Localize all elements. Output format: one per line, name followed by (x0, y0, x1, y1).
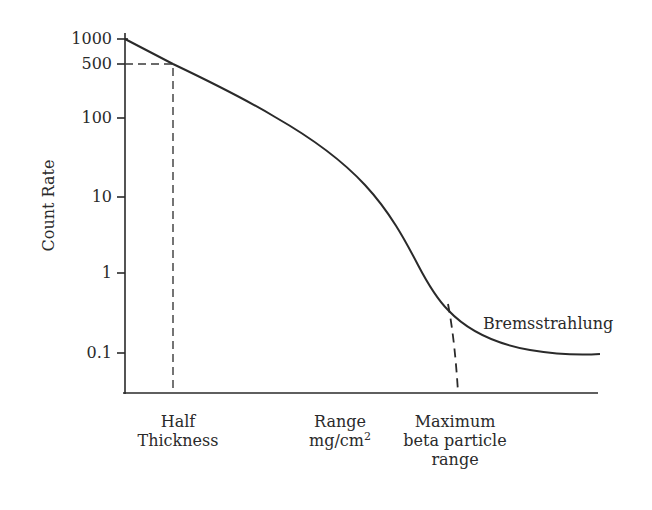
half-thickness-label-line1: Half (128, 412, 228, 431)
max-range-label-line1: Maximum (400, 412, 510, 431)
x-axis-label-line1: Range (290, 412, 390, 431)
max-range-label: Maximum beta particle range (400, 412, 510, 469)
max-range-label-line2: beta particle (400, 431, 510, 450)
x-axis-unit-text: mg/cm (309, 431, 364, 450)
y-tick-1: 1 (52, 263, 112, 282)
half-thickness-guide (125, 64, 173, 393)
y-tick-10: 10 (52, 187, 112, 206)
y-tick-1000: 1000 (52, 29, 112, 48)
y-ticks (117, 39, 128, 353)
x-axis-unit-exponent: 2 (364, 430, 371, 443)
max-range-label-line3: range (400, 450, 510, 469)
absorption-curve (125, 39, 600, 355)
y-axis-label: Count Rate (39, 156, 58, 256)
bremsstrahlung-label: Bremsstrahlung (483, 314, 613, 333)
y-tick-100: 100 (52, 108, 112, 127)
x-axis-label: Range mg/cm2 (290, 412, 390, 450)
half-thickness-label-line2: Thickness (128, 431, 228, 450)
y-tick-500: 500 (52, 54, 112, 73)
x-axis-unit: mg/cm2 (290, 431, 390, 450)
half-thickness-label: Half Thickness (128, 412, 228, 450)
y-tick-0-1: 0.1 (52, 343, 112, 362)
